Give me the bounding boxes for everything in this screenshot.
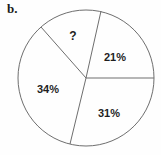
pie-slice-label-unknown: ? — [69, 29, 76, 43]
pie-chart-figure: b. ? 21% 31% 34% — [0, 0, 161, 155]
pie-chart-graphic — [0, 0, 161, 155]
pie-slice-label-21: 21% — [104, 51, 126, 63]
pie-slice-label-31: 31% — [98, 107, 120, 119]
pie-divider-top — [86, 11, 101, 78]
pie-slice-label-34: 34% — [37, 83, 59, 95]
pie-divider-upper-left — [41, 27, 86, 78]
pie-divider-bottom-left — [70, 78, 86, 144]
